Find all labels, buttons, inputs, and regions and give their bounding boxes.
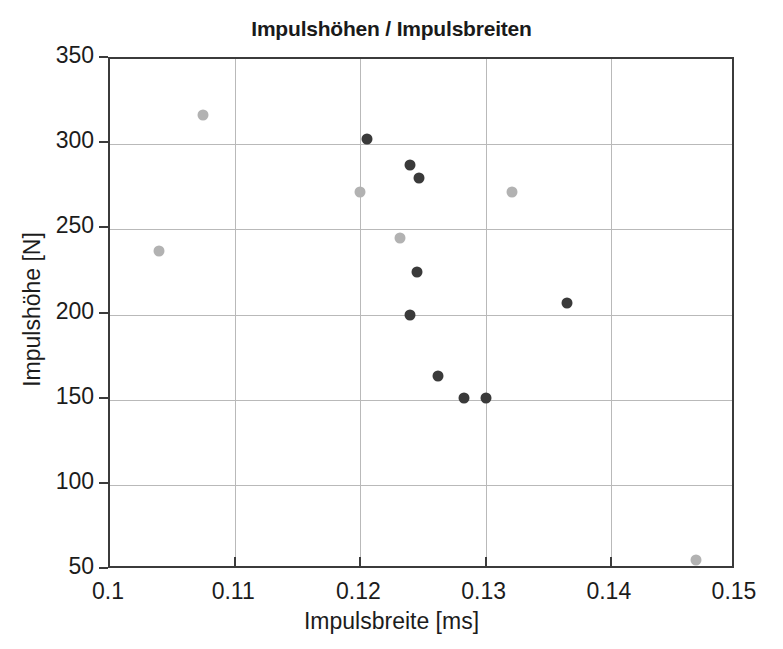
y-axis-tick (99, 141, 108, 143)
x-axis-label: Impulsbreite [ms] (0, 608, 783, 635)
x-tick-label: 0.11 (188, 578, 278, 605)
y-axis-tick (99, 56, 108, 58)
y-tick-label: 300 (24, 127, 94, 154)
y-axis-tick (99, 226, 108, 228)
y-axis-tick (99, 312, 108, 314)
x-tick-label: 0.12 (313, 578, 403, 605)
y-tick-label: 250 (24, 212, 94, 239)
x-tick-label: 0.13 (439, 578, 529, 605)
y-axis-tick (99, 397, 108, 399)
chart-figure: Impulshöhen / Impulsbreiten Impulshöhe [… (0, 0, 783, 649)
x-tick-label: 0.1 (63, 578, 153, 605)
y-tick-label: 200 (24, 298, 94, 325)
axis-labels-layer: Impulshöhe [N] Impulsbreite [ms] (0, 0, 783, 649)
y-tick-label: 100 (24, 468, 94, 495)
x-tick-label: 0.15 (689, 578, 779, 605)
y-tick-label: 50 (24, 553, 94, 580)
x-tick-label: 0.14 (564, 578, 654, 605)
y-axis-tick (99, 567, 108, 569)
y-tick-label: 350 (24, 42, 94, 69)
y-axis-tick (99, 482, 108, 484)
y-tick-label: 150 (24, 383, 94, 410)
